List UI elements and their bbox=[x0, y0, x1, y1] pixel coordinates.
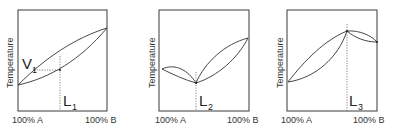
x-left-label: 100% A bbox=[155, 115, 186, 125]
liquid-subscript: 1 bbox=[72, 102, 77, 112]
vapor-curve-right bbox=[196, 38, 248, 83]
liquid-subscript: 2 bbox=[208, 102, 213, 112]
vapor-curve-left bbox=[162, 67, 196, 83]
vapor-curve-left bbox=[288, 31, 347, 82]
diagram-2: Temperature L 2 100% A 100% B bbox=[147, 10, 259, 125]
liquid-curve-left bbox=[288, 31, 347, 82]
x-right-label: 100% B bbox=[353, 115, 385, 125]
vapor-label: V bbox=[22, 55, 32, 72]
x-right-label: 100% B bbox=[85, 115, 117, 125]
liquid-subscript: 3 bbox=[358, 102, 363, 112]
liquid-label: L bbox=[63, 92, 71, 109]
azeotrope-point bbox=[346, 30, 348, 32]
x-left-label: 100% A bbox=[281, 115, 312, 125]
phase-diagrams: Temperature V 1 L 1 100% A 100% B Temper… bbox=[0, 0, 396, 137]
x-right-label: 100% B bbox=[227, 115, 259, 125]
liquid-label: L bbox=[199, 92, 207, 109]
vapor-subscript: 1 bbox=[32, 65, 37, 75]
vapor-curve-right bbox=[347, 31, 377, 42]
x-left-label: 100% A bbox=[12, 115, 43, 125]
diagram-1: Temperature V 1 L 1 100% A 100% B bbox=[5, 10, 117, 125]
y-axis-label: Temperature bbox=[275, 37, 285, 88]
y-axis-label: Temperature bbox=[5, 37, 15, 88]
diagram-3: Temperature L 3 100% A 100% B bbox=[275, 10, 385, 125]
azeotrope-point bbox=[195, 82, 197, 84]
liquid-point bbox=[59, 69, 61, 71]
b-point bbox=[376, 41, 378, 43]
y-axis-label: Temperature bbox=[147, 37, 157, 88]
liquid-curve-right bbox=[196, 38, 248, 83]
plot-frame bbox=[287, 10, 377, 111]
liquid-label: L bbox=[349, 92, 357, 109]
